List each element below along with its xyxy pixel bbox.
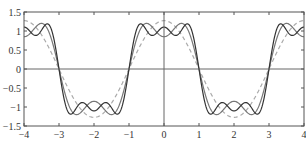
y-tick-label: −0.5 <box>3 83 21 94</box>
x-tick-label: −3 <box>54 129 65 140</box>
y-tick-label: −1.5 <box>3 121 21 132</box>
x-axis: −4−3−2−101234 <box>19 12 306 140</box>
y-tick-label: −1 <box>10 102 21 113</box>
y-tick-label: 1 <box>16 26 21 37</box>
fourier-chart: −4−3−2−101234 1.510.50−0.5−1−1.5 <box>0 0 306 142</box>
y-tick-label: 0 <box>16 64 21 75</box>
y-tick-label: 1.5 <box>9 7 22 18</box>
x-tick-label: −1 <box>124 129 135 140</box>
x-tick-label: 3 <box>267 129 272 140</box>
y-tick-label: 0.5 <box>9 45 22 56</box>
x-tick-label: −2 <box>89 129 100 140</box>
x-tick-label: 4 <box>302 129 307 140</box>
x-tick-label: 1 <box>197 129 202 140</box>
x-tick-label: 0 <box>162 129 167 140</box>
x-tick-label: 2 <box>232 129 237 140</box>
